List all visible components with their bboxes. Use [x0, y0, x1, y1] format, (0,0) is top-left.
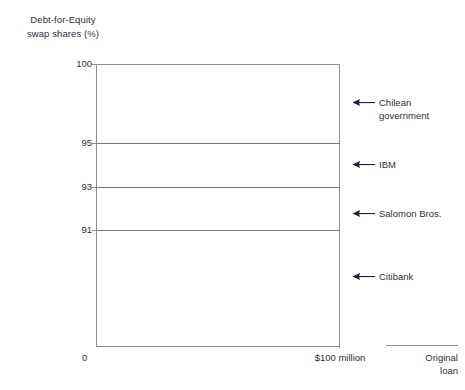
annotation-label: Citibank: [376, 270, 413, 283]
y-axis-title-line2: swap shares (%): [8, 27, 118, 41]
annotation-label: Chilean government: [376, 96, 429, 122]
annotation-chilean-government: Chilean government: [352, 96, 429, 122]
left-arrow-icon: [352, 208, 376, 219]
chart-figure: Debt-for-Equity swap shares (%) 100 95 9…: [0, 0, 465, 390]
plot-right-edge: [339, 64, 340, 348]
original-loan-rule: [386, 345, 458, 346]
left-arrow-icon: [352, 97, 376, 108]
y-axis-title-line1: Debt-for-Equity: [8, 13, 118, 27]
left-arrow-icon: [352, 271, 376, 282]
x-tick-label-zero: 0: [82, 352, 87, 363]
annotation-label-line1: Salomon Bros.: [379, 207, 441, 220]
annotation-label-line2: government: [379, 109, 429, 122]
plot-area: [96, 64, 340, 347]
x-axis-line: [96, 346, 340, 347]
x-axis-title-line1: Original: [378, 351, 458, 364]
annotation-salomon-bros: Salomon Bros.: [352, 207, 441, 220]
annotation-ibm: IBM: [352, 158, 396, 171]
y-tick-label-95: 95: [32, 138, 92, 148]
y-tick-label-100: 100: [32, 59, 92, 69]
annotation-citibank: Citibank: [352, 270, 413, 283]
y-tick-label-91: 91: [32, 225, 92, 235]
band-line-95: [96, 143, 340, 144]
annotation-label-line1: Citibank: [379, 270, 413, 283]
x-axis-title-line2: loan: [378, 364, 458, 377]
annotation-label: Salomon Bros.: [376, 207, 441, 220]
annotation-label: IBM: [376, 158, 396, 171]
annotation-label-line1: IBM: [379, 158, 396, 171]
x-axis-title: Original loan: [378, 351, 458, 377]
y-axis-line: [96, 64, 97, 347]
y-axis-title: Debt-for-Equity swap shares (%): [8, 13, 118, 40]
band-line-93: [96, 187, 340, 188]
annotation-label-line1: Chilean: [379, 96, 429, 109]
band-line-91: [96, 230, 340, 231]
y-tick-label-93: 93: [32, 182, 92, 192]
band-line-100: [96, 64, 340, 65]
left-arrow-icon: [352, 159, 376, 170]
